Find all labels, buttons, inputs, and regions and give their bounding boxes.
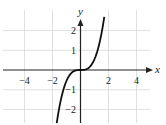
y-tick-label: −2 [65,104,76,115]
y-tick-label: 1 [71,45,76,56]
x-axis-arrow-icon [146,67,153,73]
x-axis-label: x [154,63,160,75]
x-tick-label: 2 [106,75,111,86]
y-tick-label: −1 [65,84,76,95]
function-graph: x y −4−22421−1−2 [0,0,166,125]
y-axis-label: y [77,5,83,17]
y-tick-label: 2 [71,25,76,36]
grid-lines [3,10,150,123]
x-tick-label: −4 [19,75,30,86]
y-axis-arrow-icon [78,19,84,26]
x-tick-label: −2 [47,75,58,86]
x-tick-label: 4 [134,75,139,86]
